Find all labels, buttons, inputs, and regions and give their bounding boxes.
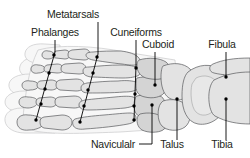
tibia-bone [209,72,250,124]
label-fibula: Fibula [208,38,236,50]
label-phalanges: Phalanges [31,26,79,38]
label-naviculalr: Naviculalr [91,138,136,150]
label-cuneiforms: Cuneiforms [110,26,162,38]
label-cuboid: Cuboid [142,38,174,50]
label-talus: Talus [160,138,184,150]
label-metatarsals: Metatarsals [47,8,99,20]
foot-anatomy-figure: Metatarsals Phalanges Cuneiforms Cuboid … [0,0,250,158]
label-tibia: Tibia [211,138,233,150]
